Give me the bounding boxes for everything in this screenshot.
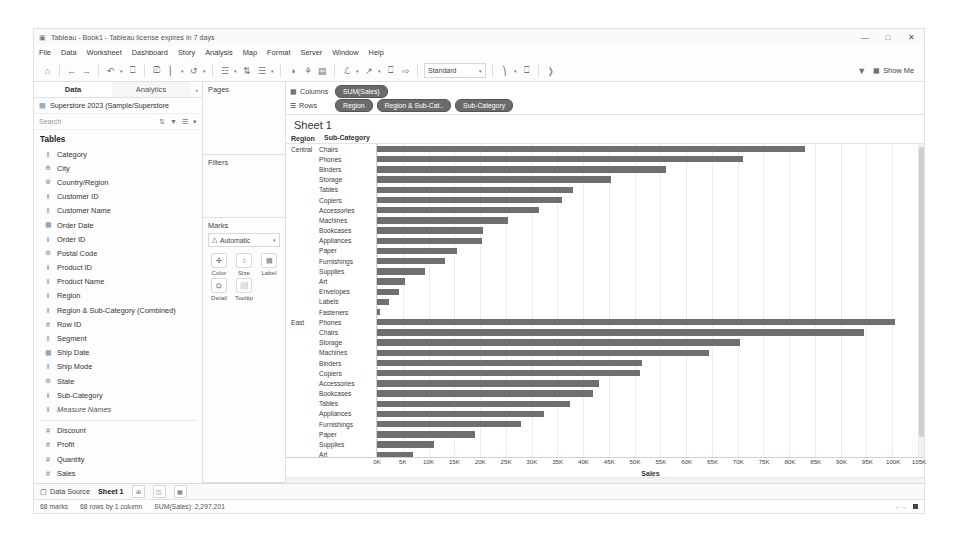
menu-item-story[interactable]: Story [178,48,195,57]
menu-item-window[interactable]: Window [332,48,358,57]
fit-selector[interactable]: Standard ▾ [424,63,486,78]
field-city[interactable]: ⊕City [34,161,202,175]
menu-item-dashboard[interactable]: Dashboard [132,48,168,57]
table-row[interactable] [377,164,918,174]
table-row[interactable] [377,144,918,154]
collapse-pane-icon[interactable]: ◂ [190,82,202,97]
table-row[interactable] [377,450,918,457]
bar-mark[interactable] [377,339,740,345]
field-measure-names[interactable]: ‖Measure Names [34,402,202,416]
table-row[interactable] [377,327,918,337]
field-postal-code[interactable]: ⊕Postal Code [34,246,202,260]
pages-shelf[interactable]: Pages [203,82,285,155]
pill-region-sub-cat[interactable]: Region & Sub-Cat.. [377,99,452,112]
menu-item-data[interactable]: Data [61,48,77,57]
home-icon[interactable]: ⌂ [40,63,55,78]
data-source-tab[interactable]: ▢ Data Source [40,487,90,496]
field-product-name[interactable]: ‖Product Name [34,275,202,289]
close-button[interactable]: ✕ [906,33,916,42]
maximize-button[interactable]: □ [883,33,893,42]
field-discount[interactable]: #Discount [34,424,202,438]
new-worksheet-icon[interactable]: ⎕ [125,63,140,78]
table-row[interactable] [377,276,918,286]
mark-button-label[interactable]: ▤Label [258,253,280,276]
bar-mark[interactable] [377,431,475,437]
table-row[interactable] [377,338,918,348]
new-worksheet-button[interactable]: ⊞ [132,485,145,498]
bar-mark[interactable] [377,360,642,366]
table-row[interactable] [377,195,918,205]
field-region-sub-category-combined[interactable]: ‖Region & Sub-Category (Combined) [34,303,202,317]
bar-mark[interactable] [377,268,425,274]
field-region[interactable]: ‖Region [34,289,202,303]
bar-mark[interactable] [377,248,457,254]
bar-mark[interactable] [377,329,864,335]
bar-mark[interactable] [377,299,389,305]
table-row[interactable] [377,409,918,419]
share-icon[interactable]: ❭ [543,63,558,78]
back-icon[interactable]: ← [64,63,79,78]
field-sales[interactable]: #Sales [34,466,202,480]
horizontal-scrollbar[interactable] [286,477,924,483]
table-row[interactable] [377,297,918,307]
table-row[interactable] [377,358,918,368]
bar-mark[interactable] [377,207,539,213]
menu-item-analysis[interactable]: Analysis [205,48,233,57]
bar-mark[interactable] [377,166,666,172]
field-quantity[interactable]: #Quantity [34,452,202,466]
table-row[interactable] [377,348,918,358]
table-row[interactable] [377,419,918,429]
sheet-tab-sheet1[interactable]: Sheet 1 [98,487,124,496]
save-icon[interactable]: ↶ [103,63,118,78]
fit-caret-icon[interactable]: ▾ [376,63,383,78]
field-order-id[interactable]: ‖Order ID [34,232,202,246]
table-row[interactable] [377,246,918,256]
field-state[interactable]: ⊕State [34,374,202,388]
columns-shelf[interactable]: ▦ Columns SUM(Sales) [286,84,924,98]
presentation-mode-icon[interactable]: ⎕ [519,63,534,78]
table-row[interactable] [377,317,918,327]
bar-mark[interactable] [377,227,483,233]
table-row[interactable] [377,175,918,185]
menu-item-format[interactable]: Format [267,48,290,57]
format-icon[interactable]: ℒ [339,63,354,78]
bar-mark[interactable] [377,380,599,386]
cell-size-icon[interactable]: ⎕ [383,63,398,78]
bar-mark[interactable] [377,350,709,356]
table-row[interactable] [377,368,918,378]
show-me-button[interactable]: ▦ Show Me [869,66,918,75]
field-customer-id[interactable]: ‖Customer ID [34,190,202,204]
table-row[interactable] [377,399,918,409]
mark-button-tooltip[interactable]: ⬜Tooltip [233,278,255,301]
field-profit[interactable]: #Profit [34,438,202,452]
pill-sum-sales[interactable]: SUM(Sales) [335,85,388,98]
clear-sheet-icon[interactable]: ⎜ [164,63,179,78]
clear-caret-icon[interactable]: ▾ [179,63,186,78]
mark-button-color[interactable]: ✣Color [208,253,230,276]
filters-shelf[interactable]: Filters [203,155,285,218]
menu-item-server[interactable]: Server [300,48,322,57]
bar-mark[interactable] [377,197,562,203]
table-row[interactable] [377,226,918,236]
minimize-button[interactable]: — [860,33,870,42]
swap-rows-cols-icon[interactable]: ☲ [217,63,232,78]
bar-mark[interactable] [377,176,611,182]
undo-caret-icon[interactable]: ▾ [201,63,208,78]
table-row[interactable] [377,185,918,195]
pill-region[interactable]: Region [335,99,373,112]
field-order-date[interactable]: ▦Order Date [34,218,202,232]
fit-axis-icon[interactable]: ⎞ [497,63,512,78]
tab-data[interactable]: Data [34,82,112,97]
bar-mark[interactable] [377,278,405,284]
new-story-button[interactable]: ▦ [174,485,187,498]
bar-mark[interactable] [377,146,805,152]
rows-shelf[interactable]: ☰ Rows RegionRegion & Sub-Cat..Sub-Categ… [286,98,924,112]
bar-mark[interactable] [377,187,573,193]
field-customer-name[interactable]: ‖Customer Name [34,204,202,218]
datasource-row[interactable]: ▤ Superstore 2023 (Sample/Superstore [34,98,202,114]
menu-item-file[interactable]: File [39,48,51,57]
table-row[interactable] [377,429,918,439]
mark-button-detail[interactable]: ⛭Detail [208,278,230,301]
menu-item-worksheet[interactable]: Worksheet [87,48,122,57]
pill-sub-category[interactable]: Sub-Category [455,99,513,112]
